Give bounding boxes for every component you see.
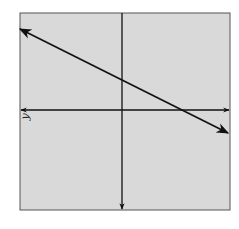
coordinate-plane — [0, 0, 239, 229]
plot-frame — [20, 13, 230, 210]
